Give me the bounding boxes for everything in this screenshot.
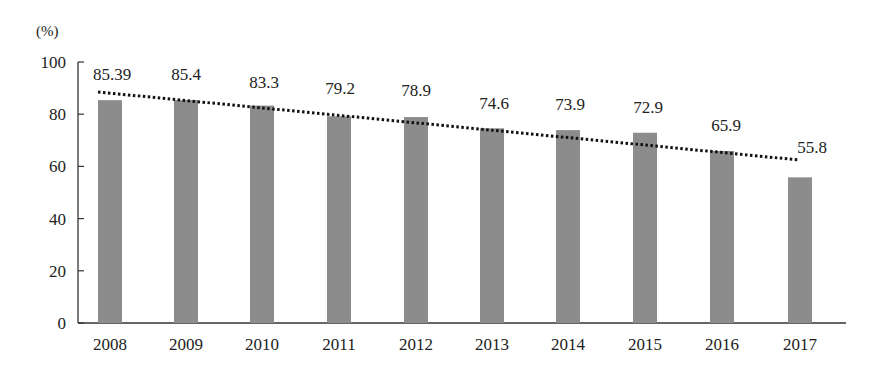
x-tick-label: 2013 <box>475 335 509 354</box>
bar <box>633 133 657 323</box>
y-axis: (%)020406080100 <box>36 23 84 333</box>
data-label: 78.9 <box>401 81 431 100</box>
bar <box>710 151 734 323</box>
data-label: 85.39 <box>93 65 131 84</box>
x-tick-label: 2012 <box>399 335 433 354</box>
data-label: 79.2 <box>325 79 355 98</box>
x-tick-label: 2010 <box>245 335 279 354</box>
x-tick-label: 2009 <box>169 335 203 354</box>
data-label: 74.6 <box>479 94 509 113</box>
y-tick-label: 100 <box>41 53 67 72</box>
data-label: 72.9 <box>633 98 663 117</box>
x-tick-label: 2016 <box>705 335 739 354</box>
bar <box>788 177 812 323</box>
y-tick-label: 80 <box>49 105 66 124</box>
x-tick-label: 2017 <box>783 335 818 354</box>
x-tick-label: 2008 <box>93 335 127 354</box>
data-label: 55.8 <box>797 138 827 157</box>
y-tick-label: 20 <box>49 262 66 281</box>
y-tick-label: 60 <box>49 157 66 176</box>
data-label: 83.3 <box>249 73 279 92</box>
data-label: 85.4 <box>171 65 201 84</box>
bar <box>480 128 504 323</box>
x-tick-label: 2014 <box>551 335 586 354</box>
bar-chart: (%)020406080100 200820092010201120122013… <box>0 0 874 383</box>
x-tick-label: 2015 <box>628 335 662 354</box>
bar <box>174 100 198 323</box>
x-axis: 2008200920102011201220132014201520162017 <box>78 323 846 354</box>
trendline <box>98 92 798 160</box>
y-tick-label: 0 <box>58 314 67 333</box>
bar <box>556 130 580 323</box>
bar <box>327 116 351 323</box>
data-label: 65.9 <box>711 116 741 135</box>
x-tick-label: 2011 <box>322 335 355 354</box>
bar <box>98 100 122 323</box>
y-tick-label: 40 <box>49 210 66 229</box>
bars <box>98 100 812 323</box>
data-label: 73.9 <box>555 95 585 114</box>
data-labels: 85.3985.483.379.278.974.673.972.965.955.… <box>93 65 827 157</box>
bar <box>250 106 274 323</box>
y-unit-label: (%) <box>36 23 59 40</box>
bar <box>404 117 428 323</box>
